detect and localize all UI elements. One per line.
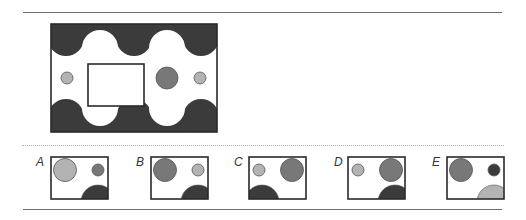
option-label-a: A — [36, 155, 44, 169]
option-small-circle — [488, 164, 500, 176]
option-semicircle — [477, 185, 511, 219]
option-big-circle — [450, 159, 473, 182]
option-semicircle — [378, 185, 412, 219]
question-circle-right — [194, 72, 206, 84]
option-semicircle — [181, 185, 215, 219]
top-dark-lobe — [116, 20, 152, 56]
question-circle-right-center — [156, 67, 178, 89]
top-white-notch — [149, 30, 185, 66]
top-dark-lobe — [183, 20, 219, 56]
bottom-divider — [23, 209, 502, 210]
top-dark-lobe — [48, 20, 84, 56]
option-label-b: B — [136, 155, 144, 169]
option-small-circle — [352, 164, 364, 176]
question-figure — [46, 20, 222, 135]
option-small-circle — [253, 164, 265, 176]
bottom-dark-lobe — [183, 99, 219, 135]
option-semicircle — [245, 185, 279, 219]
top-white-notch — [82, 30, 118, 66]
option-big-circle — [54, 159, 77, 182]
bottom-dark-lobe — [48, 99, 84, 135]
missing-piece-window — [88, 64, 144, 106]
bottom-white-notch — [149, 90, 185, 126]
option-big-circle — [154, 159, 177, 182]
question-circle-left — [61, 72, 73, 84]
option-label-c: C — [234, 155, 243, 169]
option-label-e: E — [432, 155, 440, 169]
option-big-circle — [281, 159, 304, 182]
option-semicircle — [81, 185, 115, 219]
dotted-separator — [22, 145, 504, 146]
option-small-circle — [92, 164, 104, 176]
option-small-circle — [192, 164, 204, 176]
puzzle-canvas — [0, 0, 526, 220]
option-big-circle — [380, 159, 403, 182]
option-label-d: D — [334, 155, 343, 169]
